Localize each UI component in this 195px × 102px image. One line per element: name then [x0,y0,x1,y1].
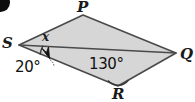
angle-label-20-degrees: 20° [15,60,40,75]
angle-label-130-degrees: 130° [89,57,124,72]
geometry-figure: P Q R S x 20° 130° [0,0,195,102]
figure-canvas [0,0,195,102]
angle-label-x: x [42,31,49,43]
vertex-label-R: R [112,87,124,102]
vertex-label-S: S [2,36,13,51]
quadrilateral-shape [19,15,176,86]
vertex-label-Q: Q [180,47,193,62]
vertex-label-P: P [77,0,88,15]
